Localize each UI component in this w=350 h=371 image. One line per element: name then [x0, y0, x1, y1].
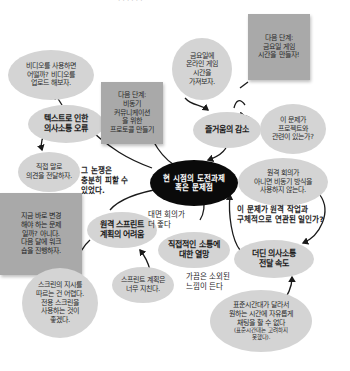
center-text: 현 시점의 도전과제 혹은 문제점	[163, 174, 224, 193]
thought-related-project: 이 문제가 프로젝트와 관련이 있는가?	[260, 104, 326, 154]
thought-no-async: 원격 회의가 아니면 비동기 방식을 사용하지 않는다.	[238, 158, 328, 206]
thought-text: 이 문제가 프로젝트와 관련이 있는가?	[272, 116, 314, 142]
topic-text: 텍스트로 인한 의사소통 오류	[44, 114, 89, 134]
thought-text: 스크린의 지시를 따르는 건 어렵다. 전용 스크린을 사용하는 것이 좋겠다.	[36, 281, 85, 325]
annotation-avoidable: 그 논쟁은 충분히 피할 수 있었다.	[81, 166, 128, 195]
next-step-game-time: 다음 단계: 금요일 게임 시간을 만들자!	[248, 14, 310, 80]
note-text: 다음 단계: 비동기 커뮤니케이션 을 위한 프로토콜 만들기	[110, 91, 154, 135]
thought-sprint-tiring: 스프린트 계획은 너무 지친다.	[112, 267, 174, 303]
thought-timezone: 표준시간대가 달라서 원하는 시간에 자유롭게 채팅을 할 수 없다 (표준시간…	[210, 290, 312, 352]
mind-map-canvas: · · · · · ·	[0, 0, 350, 371]
topic-want-direct: 직접적인 소통에 대한 열망	[158, 232, 230, 268]
thought-text: 스프린트 계획은 너무 지친다.	[121, 276, 165, 294]
topic-remote-sprint: 원격 스프린트 계획의 어려움	[87, 212, 157, 248]
note-text: 다음 단계: 금요일 게임 시간을 만들자!	[258, 34, 299, 60]
topic-text: 즐거움의 감소	[205, 125, 250, 135]
annotation-remote-question: 이 문제가 원격 작업과 구체적으로 연관된 일인가?	[237, 205, 324, 225]
thought-screen-hard: 스크린의 지시를 따르는 건 어렵다. 전용 스크린을 사용하는 것이 좋겠다.	[22, 268, 98, 338]
timezone-main-text: 표준시간대가 달라서 원하는 시간에 자유롭게 채팅을 할 수 없다	[229, 301, 293, 327]
topic-text: 직접적인 소통에 대한 열망	[168, 240, 220, 260]
thought-text: 금요일에 온라인 게임 시간을 가져보자.	[186, 52, 218, 87]
note-text: 지금 바로 변경 해야 하는 문제 일까? 아니다. 다음 달에 워크 숍을 진…	[21, 212, 61, 256]
thought-text-wrap: 표준시간대가 달라서 원하는 시간에 자유롭게 채팅을 할 수 없다 (표준시간…	[229, 292, 293, 350]
topic-text-miscommunication: 텍스트로 인한 의사소통 오류	[28, 105, 104, 143]
thought-friday-games: 금요일에 온라인 게임 시간을 가져보자.	[172, 38, 232, 100]
thought-text: 비디오를 사용하면 어떨까? 비디오를 업로드 해보자.	[26, 62, 76, 88]
next-step-async-protocol: 다음 단계: 비동기 커뮤니케이션 을 위한 프로토콜 만들기	[101, 82, 163, 144]
timezone-footnote: (표준시간대는 고려하지 못했다).	[229, 327, 293, 341]
topic-text: 원격 스프린트 계획의 어려움	[100, 220, 145, 240]
center-node: 현 시점의 도전과제 혹은 문제점	[150, 160, 238, 206]
thought-text: 원격 회의가 아니면 비동기 방식을 사용하지 않는다.	[254, 169, 312, 195]
thought-speak-directly: 직접 말로 의견을 전달하자.	[18, 152, 80, 192]
topic-less-fun: 즐거움의 감소	[193, 112, 261, 148]
next-step-workshop: 지금 바로 변경 해야 하는 문제 일까? 아니다. 다음 달에 워크 숍을 진…	[0, 193, 82, 275]
thought-use-video: 비디오를 사용하면 어떨까? 비디오를 업로드 해보자.	[8, 50, 94, 100]
cropped-title-fragment: · · · · · ·	[118, 0, 142, 5]
topic-text: 더딘 의사소통 전달 속도	[252, 249, 297, 269]
annotation-isolated: 가끔은 소외된 느낌이 든다	[186, 272, 230, 292]
annotation-face-better: 대면 회의가 더 좋다	[148, 210, 185, 230]
thought-text: 직접 말로 의견을 전달하자.	[26, 163, 72, 181]
topic-slow-comm: 더딘 의사소통 전달 속도	[234, 240, 314, 278]
